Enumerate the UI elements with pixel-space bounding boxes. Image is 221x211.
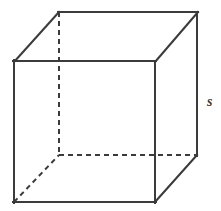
cube-drawing [0, 0, 221, 211]
side-length-label: s [207, 95, 212, 109]
cube-figure: s [0, 0, 221, 211]
edge-top-left-depth [14, 12, 59, 62]
edge-bottom-right-depth [155, 155, 197, 202]
edge-top-right-depth [155, 12, 198, 62]
